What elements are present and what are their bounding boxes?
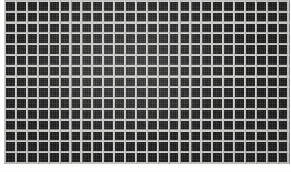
image-canvas — [0, 0, 291, 172]
mesh-panel — [4, 0, 291, 164]
page-margin-bottom — [0, 164, 291, 172]
page-margin-right — [290, 0, 291, 172]
page-margin-left — [0, 0, 4, 172]
mesh-wire-grid — [4, 0, 291, 164]
